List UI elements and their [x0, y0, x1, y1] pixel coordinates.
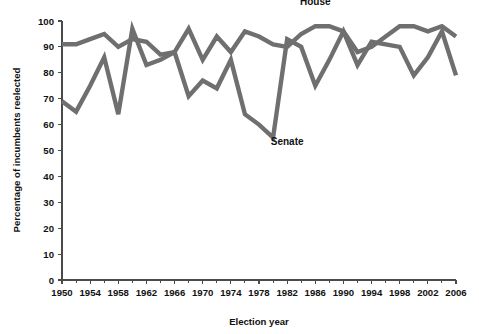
y-tick-label: 90	[43, 41, 54, 52]
x-tick-label: 1958	[108, 287, 130, 298]
x-tick-label: 1998	[389, 287, 411, 298]
x-axis-ticks: 1950195419581962196619701974197819821986…	[51, 280, 466, 298]
x-tick-label: 1974	[220, 287, 242, 298]
y-tick-label: 80	[43, 67, 54, 78]
series-label-senate: Senate	[271, 136, 304, 147]
y-tick-label: 20	[43, 223, 54, 234]
y-tick-label: 0	[49, 275, 54, 286]
x-tick-label: 1994	[361, 287, 383, 298]
chart-container: 0102030405060708090100 19501954195819621…	[0, 0, 479, 334]
series-label-house: House	[300, 0, 331, 7]
x-tick-label: 1986	[305, 287, 326, 298]
y-tick-label: 60	[43, 119, 54, 130]
x-tick-label: 1990	[333, 287, 354, 298]
line-chart: 0102030405060708090100 19501954195819621…	[0, 0, 479, 334]
x-tick-label: 2006	[445, 287, 466, 298]
y-tick-label: 70	[43, 93, 54, 104]
x-tick-label: 1970	[192, 287, 213, 298]
x-tick-label: 1954	[79, 287, 101, 298]
y-tick-label: 50	[43, 145, 54, 156]
y-tick-label: 100	[38, 16, 54, 27]
y-tick-label: 30	[43, 197, 54, 208]
y-tick-label: 10	[43, 249, 54, 260]
x-tick-label: 1978	[248, 287, 270, 298]
x-axis-title: Election year	[229, 316, 289, 327]
x-tick-label: 1982	[276, 287, 297, 298]
series-lines	[62, 26, 456, 137]
x-tick-label: 1966	[164, 287, 185, 298]
x-tick-label: 1950	[51, 287, 72, 298]
series-line-house	[62, 26, 456, 60]
y-tick-label: 40	[43, 171, 54, 182]
x-tick-label: 1962	[136, 287, 157, 298]
y-axis-ticks: 0102030405060708090100	[38, 16, 62, 286]
y-axis-title: Percentage of incumbents reelected	[11, 67, 22, 232]
x-tick-label: 2002	[417, 287, 438, 298]
